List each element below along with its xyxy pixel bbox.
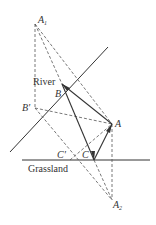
label-A1: A1 — [37, 14, 47, 26]
label-B-prime: B' — [22, 102, 31, 113]
label-grassland: Grassland — [28, 163, 68, 174]
label-C-prime: C' — [57, 149, 67, 160]
dashed-A1-A — [35, 24, 112, 124]
label-river: River — [33, 76, 56, 87]
dashed-Cprime-A — [70, 124, 112, 160]
label-C: C — [82, 149, 89, 160]
solid-B-A — [62, 84, 112, 124]
reflection-diagram: A1 River B B' A C' C Grassland A2 — [0, 0, 156, 225]
dashed-C-A2 — [94, 160, 112, 200]
arrow-at-A-icon — [106, 124, 112, 133]
label-A2: A2 — [112, 199, 122, 211]
label-B: B — [55, 88, 61, 99]
label-A: A — [114, 118, 122, 129]
solid-B-C — [62, 84, 94, 160]
